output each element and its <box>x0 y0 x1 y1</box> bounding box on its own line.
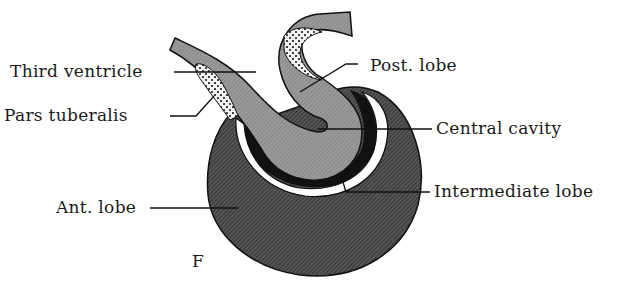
panel-letter: F <box>192 253 204 270</box>
pituitary-diagram: Third ventricle Pars tuberalis Ant. lobe… <box>0 0 626 281</box>
label-pars-tuberalis: Pars tuberalis <box>4 107 128 124</box>
leader-pars-tuberalis <box>170 96 214 116</box>
label-post-lobe: Post. lobe <box>370 57 457 74</box>
label-intermediate-lobe: Intermediate lobe <box>434 183 593 200</box>
label-ant-lobe: Ant. lobe <box>56 199 136 216</box>
label-third-ventricle: Third ventricle <box>10 63 143 80</box>
diagram-canvas <box>0 0 626 281</box>
label-central-cavity: Central cavity <box>436 120 561 137</box>
posterior-lobe-shape <box>170 12 362 180</box>
